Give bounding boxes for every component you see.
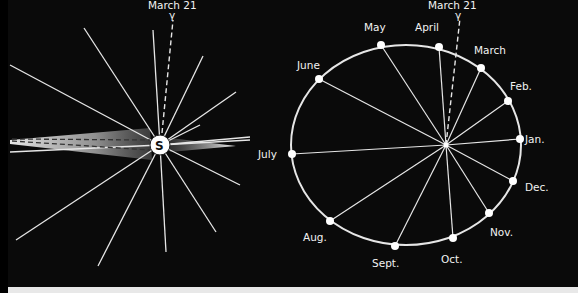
sightline-may (381, 45, 446, 145)
left-diagram: March 21 γ S (10, 0, 250, 266)
earth-position-june (315, 75, 323, 83)
left-border (0, 0, 8, 293)
light-beam-left (10, 128, 152, 160)
month-label-june: June (296, 59, 320, 71)
sightline-nov (446, 145, 489, 213)
earth-position-oct (449, 234, 457, 242)
sun-ray (98, 145, 160, 266)
sun-ray (160, 145, 216, 232)
month-label-may: May (364, 21, 386, 33)
sightline-july (292, 145, 446, 154)
month-label-feb: Feb. (510, 80, 532, 92)
earth-position-nov (485, 209, 493, 217)
sightline-oct (446, 145, 453, 238)
earth-position-aug (326, 217, 334, 225)
sightline-feb (446, 101, 508, 145)
month-label-march: March (474, 44, 506, 56)
sun-ray (160, 145, 240, 185)
equinox-direction-dashed (162, 20, 173, 133)
sightline-dec (446, 145, 513, 181)
sightline-april (439, 47, 446, 145)
equinox-symbol-right: γ (455, 9, 461, 21)
month-label-jan: Jan. (524, 133, 545, 145)
sun-ray (160, 145, 166, 252)
sightline-march (446, 68, 481, 145)
bottom-strip (8, 287, 578, 293)
sightline-sept (395, 145, 446, 246)
sun-ray (16, 145, 160, 240)
earth-position-dec (509, 177, 517, 185)
sun-ray (10, 65, 160, 145)
earth-position-march (477, 64, 485, 72)
sightline-jan (446, 139, 520, 145)
earth-position-jan (516, 135, 524, 143)
orbit-diagram: March 21 γ S March 21 γ Jan.Feb.MarchApr… (0, 0, 578, 293)
earth-position-april (435, 43, 443, 51)
light-beam-right (170, 138, 236, 152)
earth-position-may (377, 41, 385, 49)
right-diagram: March 21 γ Jan.Feb.MarchAprilMayJuneJuly… (257, 0, 549, 269)
sun-label: S (155, 139, 164, 153)
month-label-aug: Aug. (303, 231, 327, 243)
sun-ray (153, 30, 160, 145)
month-label-april: April (415, 21, 439, 33)
sightline-june (319, 79, 446, 145)
earth-position-sept (391, 242, 399, 250)
month-label-nov: Nov. (490, 226, 513, 238)
month-label-dec: Dec. (525, 181, 549, 193)
earth-position-feb (504, 97, 512, 105)
earth-position-july (288, 150, 296, 158)
equinox-label-right: March 21 (428, 0, 477, 11)
sightline-aug (330, 145, 446, 221)
month-label-july: July (257, 148, 277, 160)
sun-ray (84, 28, 160, 145)
equinox-direction-dashed-right (446, 18, 460, 145)
sun-center-point (444, 143, 449, 148)
month-label-oct: Oct. (441, 253, 463, 265)
sun-ray (160, 92, 236, 145)
equinox-symbol-left: γ (169, 9, 175, 21)
diagram-stage: March 21 γ S March 21 γ Jan.Feb.MarchApr… (0, 0, 578, 293)
month-label-sept: Sept. (372, 257, 399, 269)
sun-ray (160, 56, 203, 145)
